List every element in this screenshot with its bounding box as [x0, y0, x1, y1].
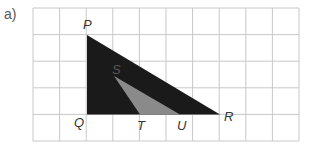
grid-lines	[33, 8, 299, 141]
point-t-label: T	[137, 118, 146, 133]
point-q-label: Q	[74, 115, 84, 130]
point-u-label: U	[177, 118, 187, 133]
point-s-label: S	[112, 62, 121, 77]
point-r-label: R	[224, 109, 233, 124]
grid-diagram: P S Q T U R	[0, 0, 316, 152]
point-p-label: P	[83, 17, 92, 32]
